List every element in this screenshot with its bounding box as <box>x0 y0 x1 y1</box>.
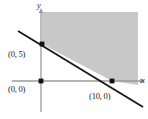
point-marker-0-0 <box>39 79 44 84</box>
point-label-10-0: (10, 0) <box>89 92 110 101</box>
math-graph-figure: y x (0, 5) (0, 0) (10, 0) <box>0 0 148 119</box>
y-axis-label: y <box>37 1 41 10</box>
point-label-0-5: (0, 5) <box>8 50 25 59</box>
x-axis-label: x <box>141 76 145 85</box>
point-marker-10-0 <box>110 79 115 84</box>
point-label-0-0: (0, 0) <box>8 85 25 94</box>
plot-canvas <box>0 0 148 119</box>
point-marker-0-5 <box>40 42 45 47</box>
